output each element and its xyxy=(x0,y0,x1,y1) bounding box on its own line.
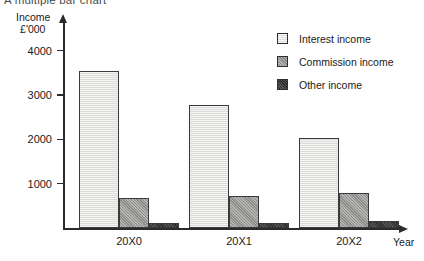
legend-item: Commission income xyxy=(277,50,394,73)
y-axis-tick-label: 2000 xyxy=(12,133,52,145)
legend-item: Other income xyxy=(277,73,394,96)
chart-figure: A multiple bar chart Income £'000 Year 1… xyxy=(0,0,424,261)
x-axis-category-label: 20X0 xyxy=(116,235,142,247)
bar xyxy=(339,193,369,228)
x-axis-line xyxy=(63,228,400,230)
x-axis-category-label: 20X1 xyxy=(226,235,252,247)
legend-swatch xyxy=(277,33,288,44)
chart-legend: Interest incomeCommission incomeOther in… xyxy=(277,27,394,96)
x-axis-title: Year xyxy=(393,236,414,248)
y-axis-title-text: Income xyxy=(16,11,50,23)
bar xyxy=(149,223,179,228)
bar xyxy=(79,71,119,228)
legend-label: Other income xyxy=(299,79,362,91)
legend-label: Commission income xyxy=(299,56,394,68)
y-axis-tick-label: 3000 xyxy=(12,89,52,101)
y-axis-title: Income £'000 xyxy=(16,12,50,35)
y-axis-line xyxy=(63,22,65,229)
bar xyxy=(189,105,229,228)
x-axis-arrow-icon xyxy=(399,225,408,233)
y-axis-tick xyxy=(57,183,64,184)
y-axis-tick-label: 1000 xyxy=(12,178,52,190)
bar xyxy=(299,138,339,228)
legend-label: Interest income xyxy=(299,33,371,45)
x-axis-category-label: 20X2 xyxy=(336,235,362,247)
bar xyxy=(119,198,149,228)
y-axis-tick-label: 4000 xyxy=(12,45,52,57)
y-axis-tick xyxy=(57,139,64,140)
chart-title: A multiple bar chart xyxy=(4,0,106,6)
y-axis-tick xyxy=(57,94,64,95)
legend-swatch xyxy=(277,79,288,90)
legend-swatch xyxy=(277,56,288,67)
y-axis-unit-text: £'000 xyxy=(16,24,50,36)
bar xyxy=(229,196,259,228)
y-axis-arrow-icon xyxy=(59,14,67,23)
y-axis-tick xyxy=(57,50,64,51)
legend-item: Interest income xyxy=(277,27,394,50)
bar xyxy=(259,223,289,228)
bar xyxy=(369,221,399,228)
